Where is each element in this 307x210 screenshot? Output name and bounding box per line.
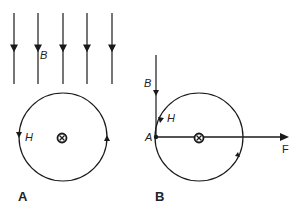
force-arrow-icon: [280, 133, 289, 141]
panel-a: B H A: [11, 13, 115, 204]
panel-b: B H F A B: [144, 55, 289, 204]
current-into-page-icon: [58, 134, 67, 143]
point-label-a: A: [144, 131, 152, 143]
magnetic-field-diagram: B H A B H F A B: [0, 0, 307, 210]
circle-label-h: H: [25, 131, 33, 143]
field-label-b2: B: [144, 77, 151, 89]
circle-arrow-right-icon: [104, 135, 110, 141]
circle-arrow-left-icon: [16, 132, 22, 138]
point-a: [154, 135, 158, 139]
panel-label-b: B: [155, 189, 164, 204]
field-arrow-down-icon: [153, 90, 159, 96]
force-label-f: F: [282, 143, 289, 155]
uniform-field-lines: [11, 13, 115, 84]
field-label-b: B: [40, 49, 47, 61]
circle-label-h2: H: [167, 112, 175, 124]
current-into-page-icon-b: [195, 134, 204, 143]
panel-label-a: A: [18, 189, 28, 204]
